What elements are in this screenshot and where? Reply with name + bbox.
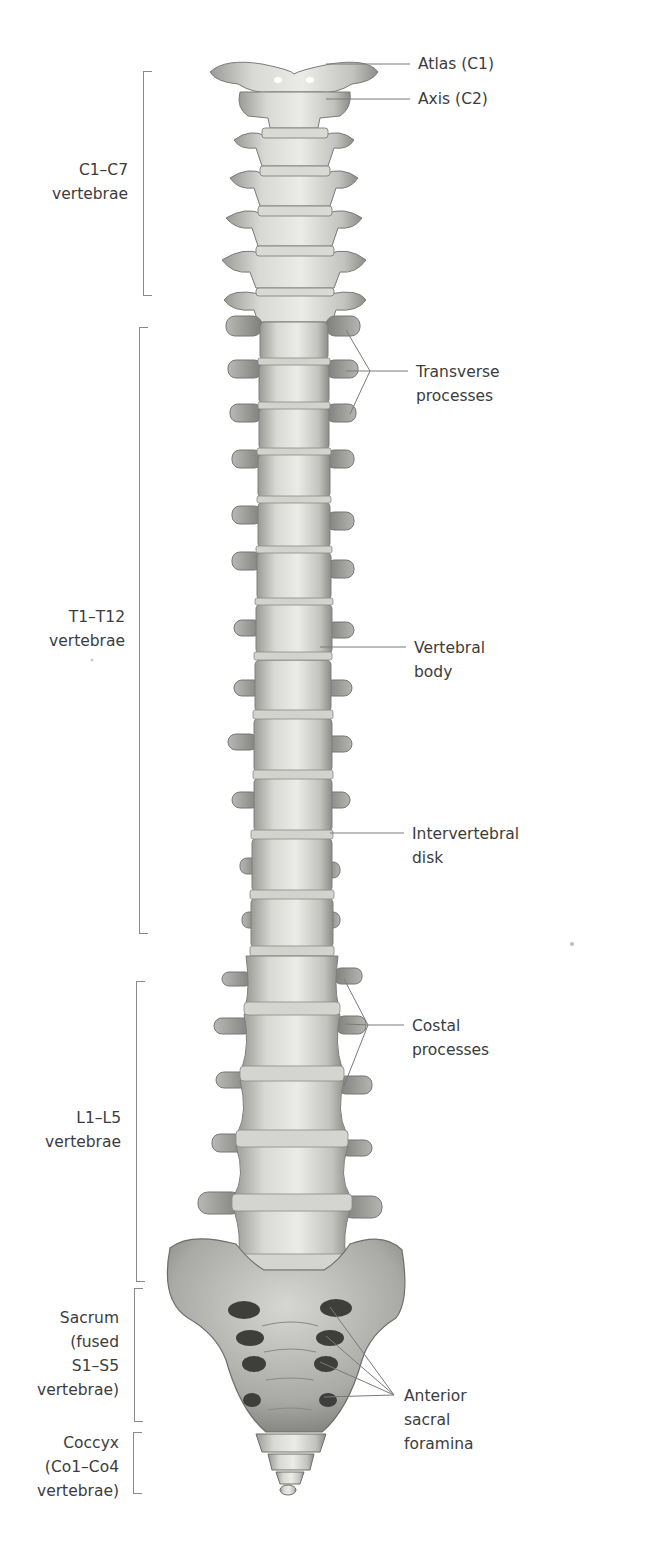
coccyx-bone	[256, 1434, 326, 1495]
label-anterior-sacral-foramina: Anterior sacral foramina	[404, 1384, 474, 1456]
label-thoracic: T1–T12 vertebrae	[49, 605, 125, 653]
scan-speck	[570, 942, 574, 946]
bracket-cervical	[143, 71, 152, 296]
label-coccyx: Coccyx (Co1–Co4 vertebrae)	[37, 1431, 119, 1503]
label-atlas: Atlas (C1)	[418, 52, 494, 76]
cervical-vertebrae	[222, 128, 366, 322]
spine-diagram: C1–C7 vertebrae T1–T12 vertebrae L1–L5 v…	[0, 0, 656, 1546]
label-axis: Axis (C2)	[418, 87, 488, 111]
label-costal-processes: Costal processes	[412, 1014, 489, 1062]
bracket-thoracic	[139, 327, 148, 934]
axis-bone	[239, 92, 350, 128]
label-sacrum: Sacrum (fused S1–S5 vertebrae)	[37, 1306, 119, 1402]
label-lumbar: L1–L5 vertebrae	[45, 1106, 121, 1154]
bracket-sacrum	[134, 1288, 143, 1422]
lumbar-vertebrae	[198, 956, 382, 1270]
label-intervertebral-disk: Intervertebral disk	[412, 822, 519, 870]
bracket-lumbar	[136, 981, 145, 1282]
label-transverse-processes: Transverse processes	[416, 360, 500, 408]
scan-speck	[91, 659, 94, 662]
thoracic-bodies	[251, 322, 333, 948]
label-vertebral-body: Vertebral body	[414, 636, 485, 684]
bracket-coccyx	[133, 1432, 142, 1494]
label-cervical: C1–C7 vertebrae	[52, 158, 128, 206]
thoracic-vertebrae	[226, 316, 360, 956]
atlas-bone	[210, 62, 378, 92]
